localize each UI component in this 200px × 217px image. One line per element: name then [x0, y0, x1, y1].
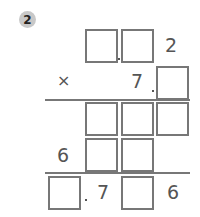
answer-box-r5-c1[interactable] — [48, 176, 81, 210]
digit-r5-1: 7 — [97, 183, 109, 202]
answer-box-r1-c1[interactable] — [85, 29, 118, 63]
digit-r5-2: 6 — [167, 183, 179, 202]
digit-r2: 7 — [131, 72, 143, 91]
digit-r4: 6 — [57, 146, 69, 165]
decimal-point — [152, 90, 154, 92]
answer-box-r3-c2[interactable] — [121, 102, 154, 136]
answer-box-r3-c3[interactable] — [156, 102, 189, 136]
decimal-point — [118, 58, 120, 60]
divider-line-2 — [45, 172, 190, 174]
answer-box-r4-c2[interactable] — [121, 138, 154, 172]
answer-box-r5-c2[interactable] — [121, 176, 154, 210]
answer-box-r1-c2[interactable] — [121, 29, 154, 63]
decimal-point — [85, 199, 87, 201]
answer-box-r3-c1[interactable] — [85, 102, 118, 136]
multiply-sign: × — [57, 73, 70, 89]
digit-r1: 2 — [165, 36, 177, 55]
divider-line-1 — [45, 99, 190, 101]
answer-box-r2-c1[interactable] — [156, 66, 189, 100]
problem-number-badge: 2 — [19, 11, 36, 28]
answer-box-r4-c1[interactable] — [85, 138, 118, 172]
